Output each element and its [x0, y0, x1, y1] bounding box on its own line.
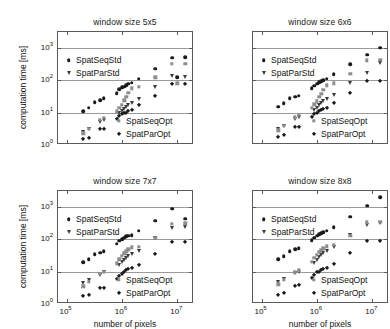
data-point: [277, 293, 280, 296]
data-point: [379, 196, 383, 200]
circle-marker-icon: [260, 216, 267, 223]
legend-item-spatseqopt: SpatSeqOpt: [310, 275, 367, 285]
square-marker-icon: [310, 277, 317, 284]
x-tick: [262, 191, 263, 194]
y-tick: [253, 207, 256, 208]
data-point: [349, 251, 352, 254]
legend-label: SpatSeqStd: [271, 214, 316, 224]
x-tick: [317, 191, 318, 194]
x-tick: [262, 299, 263, 302]
data-point: [379, 239, 382, 242]
data-point: [282, 291, 285, 294]
data-point: [325, 245, 328, 248]
data-point: [379, 220, 382, 223]
data-point: [277, 283, 280, 286]
triangle-down-marker-icon: [260, 229, 267, 236]
data-point: [310, 260, 313, 263]
data-point: [313, 256, 316, 259]
y-tick: [384, 207, 387, 208]
data-point: [297, 246, 301, 250]
panel-title: window size 8x8: [252, 176, 388, 186]
y-axis-title: computation time [ms]: [18, 190, 28, 303]
data-point: [297, 268, 300, 271]
data-point: [349, 234, 352, 237]
x-tick-label: 107: [365, 307, 377, 316]
data-point: [365, 239, 368, 242]
x-tick-label: 106: [310, 307, 322, 316]
legend-item-spatseqstd: SpatSeqStd: [260, 214, 316, 224]
data-point: [332, 262, 335, 265]
x-tick: [372, 191, 373, 194]
legend-item-spatparopt: SpatParOpt: [310, 288, 365, 298]
y-axis-title: computation time [ms]: [18, 31, 28, 144]
data-point: [288, 249, 292, 253]
x-axis-title: number of pixels: [252, 319, 388, 329]
x-tick: [317, 299, 318, 302]
data-point: [282, 278, 285, 281]
x-tick-label: 105: [254, 307, 266, 316]
legend-label: SpatSeqOpt: [321, 275, 367, 285]
data-point: [297, 284, 300, 287]
y-tick: [384, 239, 387, 240]
x-tick: [372, 299, 373, 302]
data-point: [293, 271, 296, 274]
data-point: [332, 243, 335, 246]
data-point: [325, 229, 329, 233]
y-tick: [253, 272, 256, 273]
data-point: [325, 266, 328, 269]
data-point: [365, 204, 369, 208]
legend-item-spatparstd: SpatParStd: [260, 227, 314, 237]
data-point: [332, 225, 336, 229]
y-tick: [384, 272, 387, 273]
data-point: [365, 220, 368, 223]
legend-label: SpatParOpt: [321, 288, 365, 298]
data-point: [348, 215, 352, 219]
y-tick: [253, 239, 256, 240]
data-point: [276, 257, 280, 261]
diamond-marker-icon: [310, 290, 317, 297]
plot-area: [252, 190, 388, 303]
data-point: [325, 249, 329, 253]
legend-label: SpatParStd: [271, 227, 314, 237]
data-point: [282, 254, 286, 258]
